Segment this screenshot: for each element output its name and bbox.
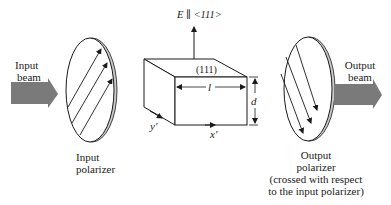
output-polarizer-icon (281, 37, 335, 141)
crystal-face-label: (111) (196, 64, 217, 76)
y-axis-label: y′ (150, 120, 157, 132)
input-polarizer-label-line1: Input (76, 151, 115, 163)
input-beam-label: Input beam (15, 59, 41, 83)
output-beam-label-line1: Output (335, 59, 385, 71)
output-beam-label: Output beam (335, 59, 385, 83)
field-direction-label: E ∥ <111> (177, 9, 222, 21)
input-polarizer-icon (66, 38, 117, 142)
output-polarizer-label: Output polarizer (crossed with respect t… (256, 149, 376, 197)
thickness-label: d (251, 95, 257, 107)
input-polarizer-label-line2: polarizer (76, 163, 115, 175)
output-polarizer-label-line1: Output (256, 149, 376, 161)
length-label: l (208, 81, 211, 93)
input-beam-label-line2: beam (15, 71, 41, 83)
electro-optic-modulator-diagram: Input beam Input polarizer E ∥ <111> (11… (0, 0, 391, 205)
output-beam-arrow (334, 79, 382, 109)
output-polarizer-note-line2: to the input polarizer) (256, 185, 376, 197)
x-axis-label: x′ (210, 128, 217, 140)
input-beam-label-line1: Input (15, 59, 41, 71)
output-beam-label-line2: beam (335, 71, 385, 83)
output-polarizer-label-line2: polarizer (256, 161, 376, 173)
input-polarizer-label: Input polarizer (76, 151, 115, 175)
output-polarizer-note-line1: (crossed with respect (256, 173, 376, 185)
